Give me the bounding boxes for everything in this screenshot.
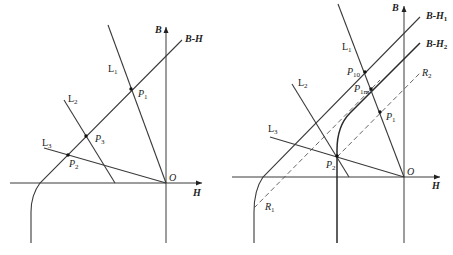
right-origin-label: O (407, 166, 414, 177)
left-bh-curve (31, 40, 182, 243)
right-p10-label: P10 (346, 66, 361, 79)
left-l1-label: L1 (108, 63, 118, 76)
left-l2-label: L2 (68, 93, 78, 106)
right-r2-label: R2 (421, 67, 432, 80)
left-point-p3 (84, 134, 87, 137)
right-l1-label: L1 (342, 41, 352, 54)
right-l3-label: L3 (268, 123, 278, 136)
left-p1-label: P1 (137, 88, 148, 101)
left-b-axis-label: B (154, 24, 162, 35)
left-point-p2 (66, 153, 69, 156)
right-l2-label: L2 (298, 77, 308, 90)
left-p2-label: P2 (68, 158, 79, 171)
right-p1-label: P1 (385, 111, 396, 124)
left-bh-label: B-H (184, 33, 204, 44)
right-recoil-r2 (337, 73, 420, 157)
left-diagram: B H O B-H L1 L2 L3 P1 P3 P2 (10, 24, 204, 243)
right-bh1-label: B-H1 (425, 10, 448, 23)
right-bh2-label: B-H2 (425, 38, 448, 51)
right-point-p2 (335, 154, 338, 157)
left-line-l2 (64, 100, 115, 183)
right-recoil-r1 (254, 80, 380, 208)
left-l3-label: L3 (42, 137, 52, 150)
left-line-l1 (108, 25, 166, 183)
right-point-p10 (363, 70, 366, 73)
left-h-axis-label: H (192, 187, 202, 198)
right-r1-label: R1 (264, 201, 275, 214)
figure-canvas: B H O B-H L1 L2 L3 P1 P3 P2 B H O (0, 0, 453, 255)
right-diagram: B H O B-H1 B-H2 R2 R1 L1 L2 L3 P10 P1m P… (232, 2, 448, 243)
right-p1m-label: P1m (353, 83, 370, 96)
right-b-axis-label: B (391, 2, 399, 13)
right-point-p1m (369, 87, 372, 90)
left-origin-label: O (169, 172, 176, 183)
right-p2-label: P2 (325, 159, 336, 172)
left-p3-label: P3 (94, 133, 105, 146)
left-point-p1 (129, 87, 132, 90)
right-h-axis-label: H (431, 180, 441, 191)
left-line-l3 (44, 148, 166, 183)
right-point-p1 (378, 110, 381, 113)
